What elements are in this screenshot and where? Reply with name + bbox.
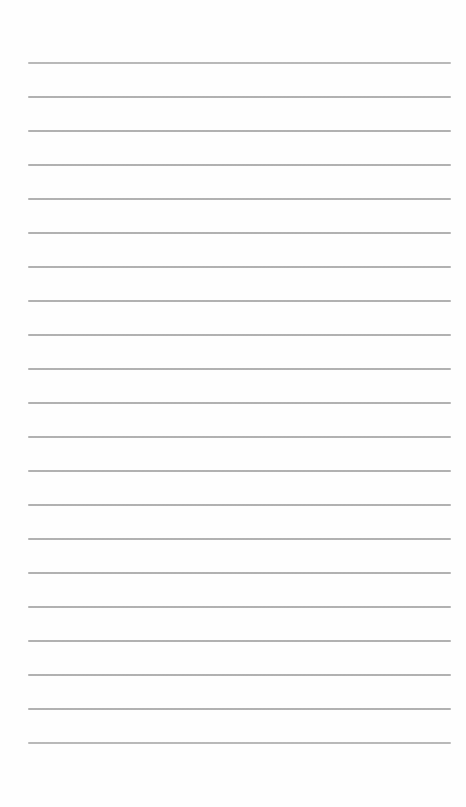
ruled-line [28,470,451,472]
ruled-line [28,300,451,302]
ruled-line [28,436,451,438]
ruled-line [28,606,451,608]
ruled-line [28,674,451,676]
ruled-line [28,402,451,404]
ruled-line [28,96,451,98]
ruled-line [28,130,451,132]
ruled-line [28,198,451,200]
ruled-line [28,538,451,540]
ruled-line [28,232,451,234]
lined-paper-page [0,0,466,807]
ruled-line [28,334,451,336]
ruled-line [28,164,451,166]
ruled-line [28,640,451,642]
ruled-line [28,572,451,574]
ruled-line [28,266,451,268]
ruled-line [28,708,451,710]
ruled-lines-container [0,0,466,807]
ruled-line [28,368,451,370]
ruled-line [28,62,451,64]
ruled-line [28,742,451,744]
ruled-line [28,504,451,506]
